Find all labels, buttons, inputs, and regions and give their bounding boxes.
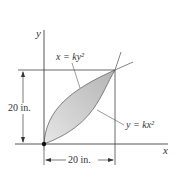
curve-label-upper: x = ky² [56, 52, 84, 62]
height-dimension-label: 20 in. [8, 103, 31, 113]
arrow-down-icon [21, 137, 25, 143]
leader-y-kx2 [97, 110, 124, 125]
curve-label-lower: y = kx² [126, 120, 154, 130]
arrow-right-icon [108, 158, 114, 162]
diagram-canvas [0, 0, 176, 174]
y-axis-label: y [36, 28, 41, 39]
shaded-area [44, 70, 115, 144]
origin-point [42, 142, 46, 146]
width-dimension-label: 20 in. [68, 155, 91, 165]
arrow-up-icon [21, 71, 25, 77]
leader-x-ky2 [72, 63, 80, 88]
arrow-left-icon [45, 158, 51, 162]
x-axis-label: x [163, 145, 168, 156]
